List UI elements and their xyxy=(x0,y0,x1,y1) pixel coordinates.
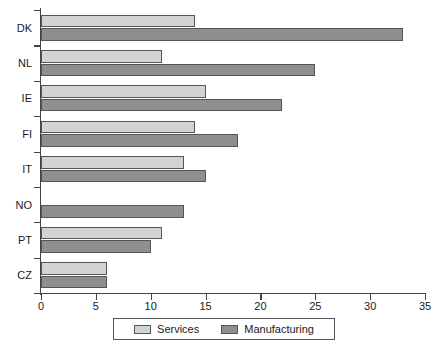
bar-dk-manufacturing xyxy=(41,28,403,41)
bar-dk-services xyxy=(41,15,195,28)
x-axis-tick-label-0: 0 xyxy=(38,300,44,312)
y-axis-tick xyxy=(34,187,41,188)
y-axis-tick xyxy=(34,45,41,46)
bar-it-services xyxy=(41,156,184,169)
legend-entry-services: Services xyxy=(134,323,199,335)
x-axis-tick-label-5: 5 xyxy=(93,300,99,312)
bar-no-manufacturing xyxy=(41,205,184,218)
bar-chart: DKNLIEFIITNOPTCZ 05101520253035 Services… xyxy=(0,0,448,351)
y-axis-tick-label-it: IT xyxy=(0,163,32,175)
y-axis-tick xyxy=(34,152,41,153)
x-axis-tick-label-35: 35 xyxy=(419,300,431,312)
y-axis-tick xyxy=(34,10,41,11)
legend-label-services: Services xyxy=(157,323,199,335)
x-axis-tick-label-25: 25 xyxy=(309,300,321,312)
bar-pt-services xyxy=(41,227,162,240)
bar-fi-manufacturing xyxy=(41,134,238,147)
y-axis-tick-label-nl: NL xyxy=(0,57,32,69)
legend-label-manufacturing: Manufacturing xyxy=(244,323,314,335)
bar-cz-manufacturing xyxy=(41,276,107,289)
bar-nl-manufacturing xyxy=(41,64,315,77)
bar-fi-services xyxy=(41,121,195,134)
x-axis-tick-label-30: 30 xyxy=(364,300,376,312)
x-axis-line xyxy=(40,293,426,294)
y-axis-tick-label-dk: DK xyxy=(0,22,32,34)
y-axis-tick-label-pt: PT xyxy=(0,234,32,246)
legend-swatch-manufacturing-icon xyxy=(221,325,238,334)
y-axis-tick xyxy=(34,81,41,82)
y-axis-tick-label-no: NO xyxy=(0,199,32,211)
legend-entry-manufacturing: Manufacturing xyxy=(221,323,314,335)
y-axis-tick xyxy=(34,293,41,294)
y-axis-tick-label-ie: IE xyxy=(0,92,32,104)
y-axis-tick-label-cz: CZ xyxy=(0,269,32,281)
bar-ie-services xyxy=(41,85,206,98)
bar-ie-manufacturing xyxy=(41,99,282,112)
legend-swatch-services-icon xyxy=(134,325,151,334)
bar-it-manufacturing xyxy=(41,170,206,183)
bar-cz-services xyxy=(41,262,107,275)
y-axis-tick xyxy=(34,116,41,117)
bar-nl-services xyxy=(41,50,162,63)
bar-pt-manufacturing xyxy=(41,240,151,253)
plot-area xyxy=(41,10,425,293)
chart-legend: Services Manufacturing xyxy=(113,318,335,340)
y-axis-tick xyxy=(34,222,41,223)
x-axis-tick-label-15: 15 xyxy=(199,300,211,312)
x-axis-tick-label-20: 20 xyxy=(254,300,266,312)
y-axis-tick xyxy=(34,258,41,259)
x-axis-tick-label-10: 10 xyxy=(145,300,157,312)
y-axis-tick-label-fi: FI xyxy=(0,128,32,140)
